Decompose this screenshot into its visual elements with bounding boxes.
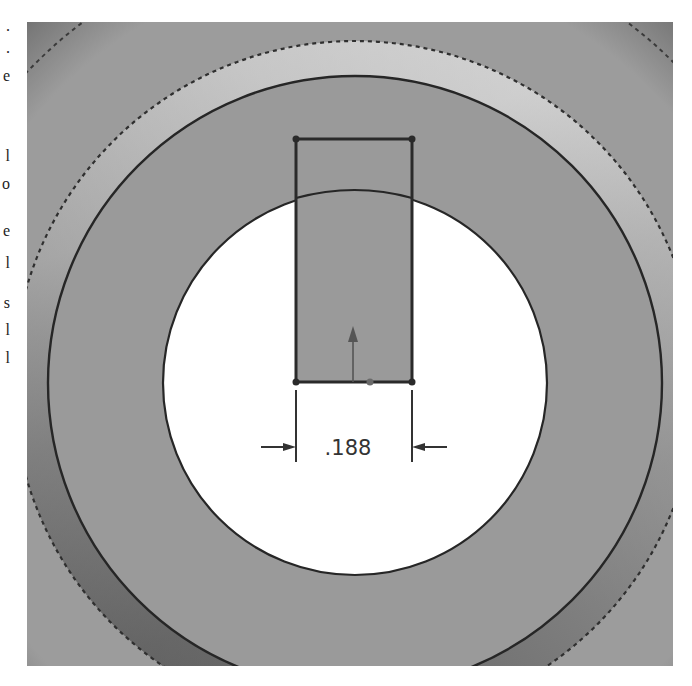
corner-point[interactable] xyxy=(409,379,416,386)
margin-glyph: l xyxy=(0,350,10,366)
margin-glyph: l xyxy=(0,255,10,271)
margin-glyph: . xyxy=(0,18,10,34)
margin-glyph: s xyxy=(0,295,10,311)
dimension-value[interactable]: .188 xyxy=(325,436,372,460)
corner-point[interactable] xyxy=(293,136,300,143)
margin-glyph: e xyxy=(0,68,10,84)
midpoint[interactable] xyxy=(367,379,374,386)
keyway-region xyxy=(296,139,412,382)
cad-viewport[interactable]: .188 xyxy=(27,22,673,666)
clipped-margin-text: . . e l o e l s l l xyxy=(0,0,22,400)
corner-point[interactable] xyxy=(293,379,300,386)
margin-glyph: l xyxy=(0,322,10,338)
sketch-canvas[interactable]: .188 xyxy=(27,22,673,666)
corner-point[interactable] xyxy=(409,136,416,143)
margin-glyph: e xyxy=(0,223,10,239)
margin-glyph: . xyxy=(0,40,10,56)
margin-glyph: l xyxy=(0,148,10,164)
margin-glyph: o xyxy=(0,176,10,192)
